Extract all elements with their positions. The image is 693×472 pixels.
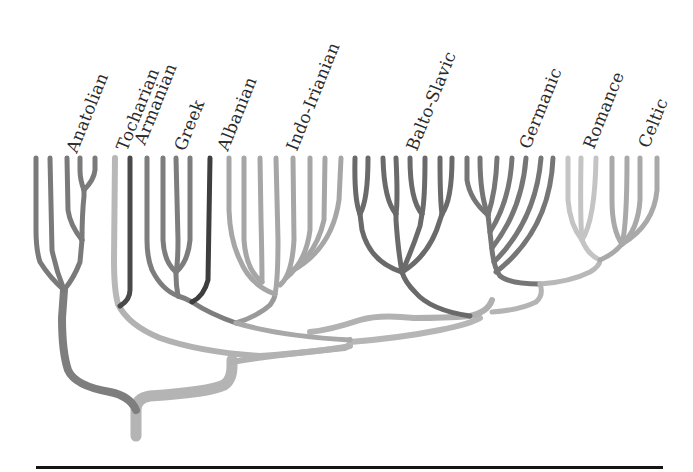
- branch-armenian: [120, 158, 130, 306]
- language-tree-diagram: Anatolian Tocharian Armanian Greek Alban…: [0, 0, 693, 472]
- branch-indo-iranian: [229, 158, 341, 294]
- tree-svg: [0, 0, 693, 472]
- branch-celtic: [600, 158, 657, 260]
- branch-balto-slavic: [355, 158, 470, 316]
- link-germanic-romance: [492, 260, 600, 312]
- branch-romance: [568, 158, 600, 260]
- branch-greek: [147, 158, 190, 296]
- branch-anatolian: [36, 158, 95, 290]
- baseline-rule: [36, 466, 663, 469]
- branch-germanic: [467, 158, 553, 284]
- link-greek-indo: [236, 294, 350, 340]
